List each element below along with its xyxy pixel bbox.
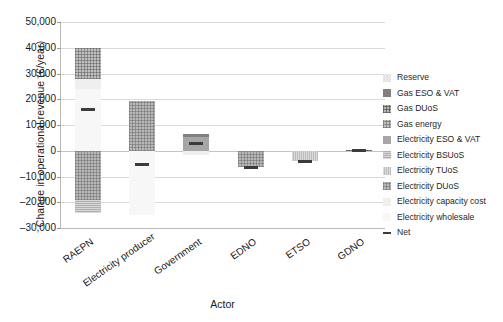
legend-swatch-gasduos (383, 105, 391, 113)
y-axis-tick-label: –20,000 (4, 197, 56, 207)
y-axis-tick-label: –30,000 (4, 223, 56, 233)
legend-item[interactable]: Gas energy (383, 117, 503, 133)
legend-label: Electricity BSUoS (397, 150, 464, 161)
legend-item[interactable]: Electricity capacity cost (383, 194, 503, 210)
legend-label: Reserve (397, 72, 429, 83)
legend-swatch-elecbsuos (383, 151, 391, 159)
legend-item[interactable]: Electricity BSUoS (383, 148, 503, 164)
legend-item[interactable]: Electricity TUoS (383, 163, 503, 179)
legend-label: Electricity ESO & VAT (397, 134, 480, 145)
legend-item[interactable]: Gas DUoS (383, 101, 503, 117)
legend-swatch-elecesovat (383, 136, 391, 144)
legend-label: Gas energy (397, 119, 441, 130)
legend-swatch-electuos (383, 167, 391, 175)
legend: ReserveGas ESO & VATGas DUoSGas energyEl… (383, 70, 503, 241)
legend-label: Gas ESO & VAT (397, 88, 459, 99)
legend-swatch-elecduos (383, 182, 391, 190)
legend-item[interactable]: Electricity wholesale (383, 210, 503, 226)
y-axis-tick-label: 10,000 (4, 120, 56, 130)
legend-label: Gas DUoS (397, 103, 438, 114)
legend-swatch-gasenergy (383, 120, 391, 128)
y-axis-tick-label: 50,000 (4, 17, 56, 27)
x-axis-title-wrap: Actor (60, 0, 385, 322)
legend-swatch-gasesovat (383, 89, 391, 97)
y-axis-tick-label: 20,000 (4, 94, 56, 104)
y-axis-tick-label: –10,000 (4, 172, 56, 182)
bar-chart: Change in operational revenue (€/year) 5… (0, 0, 503, 322)
legend-swatch-elecwhole (383, 213, 391, 221)
y-axis-tick-label: 30,000 (4, 69, 56, 79)
legend-item[interactable]: Reserve (383, 70, 503, 86)
legend-label: Electricity wholesale (397, 212, 474, 223)
legend-label: Electricity TUoS (397, 165, 458, 176)
legend-label: Electricity DUoS (397, 181, 459, 192)
legend-item[interactable]: Electricity DUoS (383, 179, 503, 195)
legend-swatch-reserve (383, 74, 391, 82)
legend-label: Electricity capacity cost (397, 196, 486, 207)
legend-swatch-eleccap (383, 198, 391, 206)
legend-item[interactable]: Electricity ESO & VAT (383, 132, 503, 148)
legend-swatch-net (383, 232, 391, 234)
legend-item[interactable]: Gas ESO & VAT (383, 86, 503, 102)
legend-label: Net (397, 227, 410, 238)
x-axis-title: Actor (60, 298, 385, 310)
legend-item[interactable]: Net (383, 225, 503, 241)
y-axis-tick-label: 0 (4, 146, 56, 156)
y-axis-tick-label: 40,000 (4, 43, 56, 53)
